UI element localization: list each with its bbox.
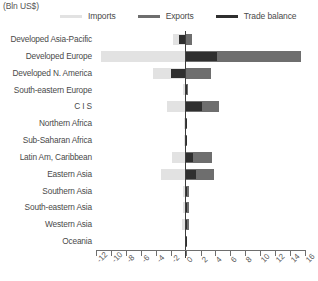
bar-trade-balance [171, 69, 186, 78]
bar-group-row [96, 98, 305, 115]
x-tick-label: -4 [155, 253, 166, 264]
bar-group-row [96, 149, 305, 166]
trade-balance-bar-chart: (Bln US$) Imports Exports Trade balance … [0, 0, 318, 281]
chart-legend: Imports Exports Trade balance [60, 9, 297, 23]
zero-axis-line [185, 31, 186, 258]
category-label: Developed Europe [0, 48, 92, 65]
bar-group-row [96, 199, 305, 216]
bar-group-row [96, 31, 305, 48]
legend-label-exports: Exports [166, 11, 194, 21]
bar-group-row [96, 48, 305, 65]
category-label: Sub-Saharan Africa [0, 132, 92, 149]
category-label: Eastern Asia [0, 166, 92, 183]
category-label: Oceania [0, 233, 92, 250]
legend-item-exports: Exports [138, 11, 194, 21]
legend-item-imports: Imports [60, 11, 116, 21]
bar-group-row [96, 65, 305, 82]
units-caption: (Bln US$) [3, 1, 39, 11]
legend-label-trade-balance: Trade balance [244, 11, 297, 21]
legend-label-imports: Imports [88, 11, 116, 21]
category-label: Developed Asia-Pacific [0, 31, 92, 48]
x-tick-label: 2 [200, 255, 209, 264]
bar-group-row [96, 132, 305, 149]
bar-imports [172, 152, 185, 163]
x-tick-label: -6 [140, 253, 151, 264]
bar-group-row [96, 183, 305, 200]
legend-swatch-trade-balance [216, 15, 238, 18]
category-label: South-eastern Europe [0, 82, 92, 99]
x-tick-label: -12 [95, 250, 109, 264]
legend-swatch-imports [60, 15, 82, 18]
bar-exports [186, 34, 192, 45]
category-label: Northern Africa [0, 115, 92, 132]
bar-trade-balance [186, 170, 196, 179]
x-tick-label: -8 [125, 253, 136, 264]
bar-group-row [96, 233, 305, 250]
bar-trade-balance [186, 153, 193, 162]
bar-group-row [96, 115, 305, 132]
bar-trade-balance [186, 102, 202, 111]
category-axis-labels: Developed Asia-PacificDeveloped EuropeDe… [0, 31, 92, 250]
category-label: South-eastern Asia [0, 199, 92, 216]
bar-exports [186, 68, 211, 79]
bar-group-row [96, 216, 305, 233]
bar-imports [101, 51, 185, 62]
legend-item-trade-balance: Trade balance [216, 11, 297, 21]
category-label: C I S [0, 98, 92, 115]
bar-imports [167, 101, 186, 112]
bar-imports [161, 169, 186, 180]
bar-trade-balance [186, 52, 217, 61]
x-tick-label: 8 [244, 255, 253, 264]
bar-group-row [96, 82, 305, 99]
x-tick-label: -2 [170, 253, 181, 264]
category-label: Southern Asia [0, 183, 92, 200]
x-tick-label: 0 [185, 255, 194, 264]
category-label: Western Asia [0, 216, 92, 233]
plot-area [96, 31, 305, 250]
x-tick-label: -10 [110, 250, 124, 264]
legend-swatch-exports [138, 15, 160, 18]
category-label: Developed N. America [0, 65, 92, 82]
x-tick-label: 6 [229, 255, 238, 264]
x-tick-label: 4 [214, 255, 223, 264]
category-label: Latin Am, Caribbean [0, 149, 92, 166]
bar-group-row [96, 166, 305, 183]
